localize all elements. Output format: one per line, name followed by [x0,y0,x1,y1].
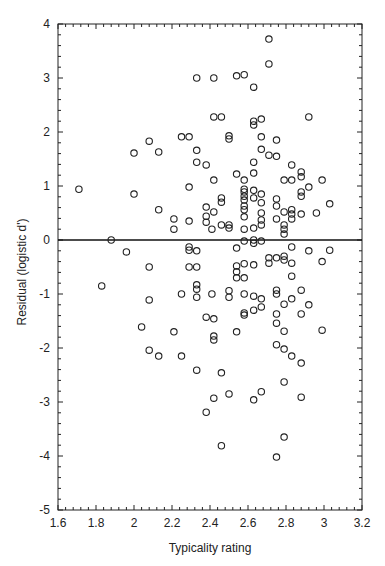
data-point [273,291,279,297]
data-point [241,261,247,267]
data-point [178,353,184,359]
data-point [146,138,152,144]
data-point [273,255,279,261]
data-point [251,84,257,90]
data-point [306,248,312,254]
data-point [273,342,279,348]
data-point [171,216,177,222]
y-tick-label: -1 [39,287,50,301]
data-point [186,218,192,224]
data-point [266,152,272,158]
data-point [289,260,295,266]
data-point [131,191,137,197]
data-point [281,177,287,183]
data-point [194,367,200,373]
data-point [194,147,200,153]
data-point [306,114,312,120]
data-point [258,389,264,395]
data-point [241,214,247,220]
y-tick-label: 0 [43,233,50,247]
data-point [289,244,295,250]
data-point [251,159,257,165]
data-point [273,203,279,209]
data-point [289,216,295,222]
data-point [258,134,264,140]
data-point [266,61,272,67]
data-point [99,283,105,289]
x-tick-label: 2.8 [278,516,295,530]
data-point [211,209,217,215]
data-point [194,75,200,81]
data-point [273,320,279,326]
data-point [241,238,247,244]
data-point [258,200,264,206]
data-point [203,162,209,168]
data-point [251,307,257,313]
data-point [211,114,217,120]
x-tick-label: 2.4 [202,516,219,530]
data-point [258,210,264,216]
data-point [76,186,82,192]
data-point [273,216,279,222]
data-point [218,199,224,205]
data-point [241,226,247,232]
data-point [218,370,224,376]
data-point [226,294,232,300]
y-tick-label: 1 [43,179,50,193]
data-point [289,273,295,279]
data-point [186,134,192,140]
data-point [218,443,224,449]
data-point [298,211,304,217]
scatter-chart: 1.61.822.22.42.62.833.2 -5-4-3-2-101234 … [0,0,385,566]
data-point [298,174,304,180]
data-point [131,150,137,156]
x-tick-label: 3.2 [354,516,371,530]
data-point [226,288,232,294]
x-tick-label: 2.6 [240,516,257,530]
data-point [281,379,287,385]
data-point [194,286,200,292]
data-point [281,434,287,440]
data-point [258,222,264,228]
y-tick-label: 2 [43,125,50,139]
data-point [233,245,239,251]
x-tick-label: 3 [321,516,328,530]
data-point [241,72,247,78]
data-point [327,247,333,253]
data-point [258,191,264,197]
data-point [251,122,257,128]
data-point [146,297,152,303]
data-point [241,177,247,183]
data-point [211,337,217,343]
data-point [251,293,257,299]
data-point [186,264,192,270]
data-point [273,137,279,143]
data-point [281,209,287,215]
data-point [171,329,177,335]
y-axis-title: Residual (logistic d') [15,218,29,325]
minor-ticks [58,24,362,510]
data-point [289,162,295,168]
data-point [281,257,287,263]
data-point [171,226,177,232]
data-point [209,291,215,297]
data-point [123,249,129,255]
data-point [186,184,192,190]
data-point [203,409,209,415]
y-tick-label: -5 [39,503,50,517]
data-point [289,296,295,302]
data-point [233,171,239,177]
y-tick-label: -3 [39,395,50,409]
data-point [258,116,264,122]
data-point [194,294,200,300]
data-point [273,196,279,202]
data-point [251,225,257,231]
data-point [273,153,279,159]
data-point [327,201,333,207]
data-point [156,149,162,155]
data-point [281,328,287,334]
data-point [273,454,279,460]
data-point [258,238,264,244]
data-point [211,395,217,401]
y-tick-labels: -5-4-3-2-101234 [39,17,50,517]
